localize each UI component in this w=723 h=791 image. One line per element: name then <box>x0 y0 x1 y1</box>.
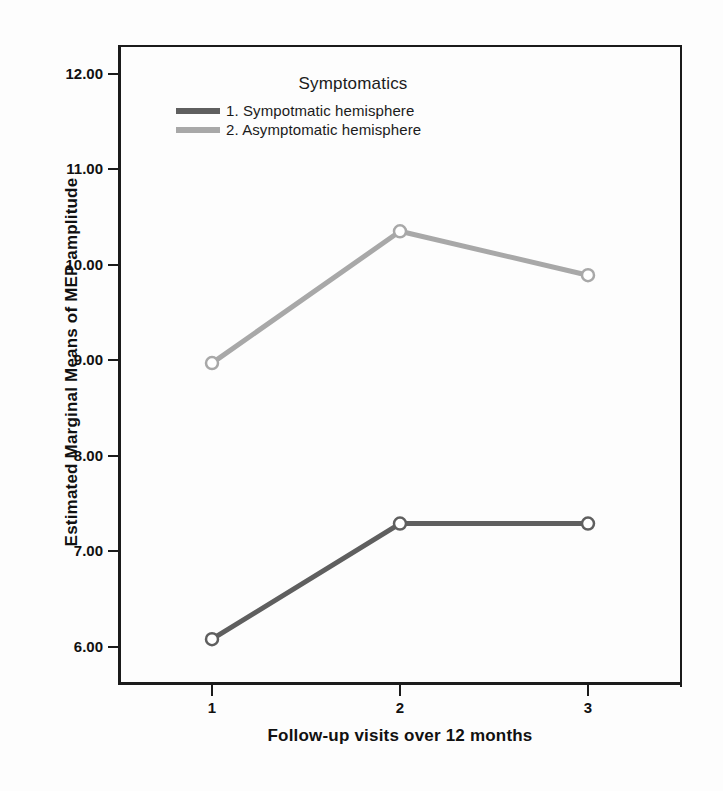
y-tick-mark <box>108 646 119 648</box>
y-tick-label: 9.00 <box>3 351 103 368</box>
y-tick-mark <box>108 550 119 552</box>
y-tick-mark <box>108 455 119 457</box>
legend-entries: 1. Sympotmatic hemisphere2. Asymptomatic… <box>176 102 506 138</box>
legend-swatch-icon <box>176 127 220 133</box>
y-tick-label: 10.00 <box>3 256 103 273</box>
legend-item-label: 1. Sympotmatic hemisphere <box>226 102 414 119</box>
y-tick-label: 8.00 <box>3 447 103 464</box>
legend-title: Symptomatics <box>200 74 506 94</box>
x-tick-mark <box>587 685 589 696</box>
chart-figure: Estimated Marginal Means of MEP amplitud… <box>0 0 723 791</box>
y-tick-mark <box>108 359 119 361</box>
legend-swatch-icon <box>176 108 220 114</box>
x-tick-label: 3 <box>558 699 618 716</box>
y-tick-mark <box>108 264 119 266</box>
x-tick-label: 2 <box>370 699 430 716</box>
y-tick-label: 12.00 <box>3 65 103 82</box>
legend-item-1: 1. Sympotmatic hemisphere <box>176 102 506 119</box>
plot-area <box>118 45 682 685</box>
y-tick-label: 6.00 <box>3 638 103 655</box>
legend-item-label: 2. Asymptomatic hemisphere <box>226 121 421 138</box>
x-tick-mark <box>399 685 401 696</box>
legend: Symptomatics 1. Sympotmatic hemisphere2.… <box>176 74 506 140</box>
y-tick-label: 7.00 <box>3 542 103 559</box>
y-tick-label: 11.00 <box>3 160 103 177</box>
x-tick-mark <box>211 685 213 696</box>
y-tick-mark <box>108 168 119 170</box>
y-tick-mark <box>108 73 119 75</box>
x-axis-title: Follow-up visits over 12 months <box>118 726 682 746</box>
x-tick-label: 1 <box>182 699 242 716</box>
legend-item-2: 2. Asymptomatic hemisphere <box>176 121 506 138</box>
